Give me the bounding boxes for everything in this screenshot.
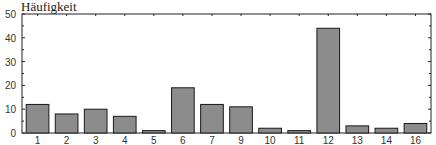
y-tick-label: 40 xyxy=(5,33,17,44)
bar xyxy=(317,28,340,133)
x-tick-label: 4 xyxy=(122,135,128,145)
x-tick-label: 12 xyxy=(323,135,335,145)
bar xyxy=(84,109,107,133)
bar xyxy=(113,116,136,133)
bar xyxy=(230,107,253,133)
bar xyxy=(404,123,427,133)
x-tick-label: 5 xyxy=(151,135,157,145)
plot-frame xyxy=(22,14,431,133)
x-tick-label: 13 xyxy=(352,135,364,145)
bar xyxy=(346,126,369,133)
bar xyxy=(26,104,49,133)
x-tick-label: 1 xyxy=(35,135,41,145)
y-tick-label: 0 xyxy=(10,128,16,139)
x-tick-label: 9 xyxy=(238,135,244,145)
bar-chart: 0102030405012345679101112131416 xyxy=(0,0,436,145)
y-tick-label: 10 xyxy=(5,104,17,115)
bar xyxy=(142,131,165,133)
y-tick-label: 30 xyxy=(5,57,17,68)
bar xyxy=(55,114,78,133)
bar xyxy=(375,128,398,133)
x-tick-label: 3 xyxy=(93,135,99,145)
x-tick-label: 6 xyxy=(180,135,186,145)
x-tick-label: 10 xyxy=(265,135,277,145)
x-tick-label: 16 xyxy=(410,135,422,145)
bar xyxy=(172,88,195,133)
bar xyxy=(201,104,224,133)
x-tick-label: 14 xyxy=(381,135,393,145)
x-tick-label: 2 xyxy=(64,135,70,145)
bar xyxy=(288,131,311,133)
x-tick-label: 11 xyxy=(294,135,305,145)
x-tick-label: 7 xyxy=(209,135,215,145)
bar xyxy=(259,128,282,133)
y-tick-label: 20 xyxy=(5,80,17,91)
y-tick-label: 50 xyxy=(5,9,17,20)
